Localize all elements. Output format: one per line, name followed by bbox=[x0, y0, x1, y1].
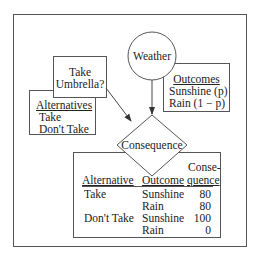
diagram-shapes bbox=[0, 0, 258, 263]
chance-node-label: Weather bbox=[128, 50, 176, 62]
arrow-decision-to-consequence bbox=[106, 88, 131, 121]
consequence-node-label: Consequence bbox=[117, 139, 187, 151]
